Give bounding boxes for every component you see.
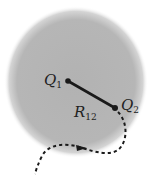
- field-region: [4, 6, 148, 158]
- charge-q2-dot: [112, 105, 118, 111]
- diagram-canvas: Q1 Q2 R12: [0, 0, 156, 182]
- charge-q1-dot: [65, 78, 71, 84]
- charge-diagram: Q1 Q2 R12: [0, 0, 156, 182]
